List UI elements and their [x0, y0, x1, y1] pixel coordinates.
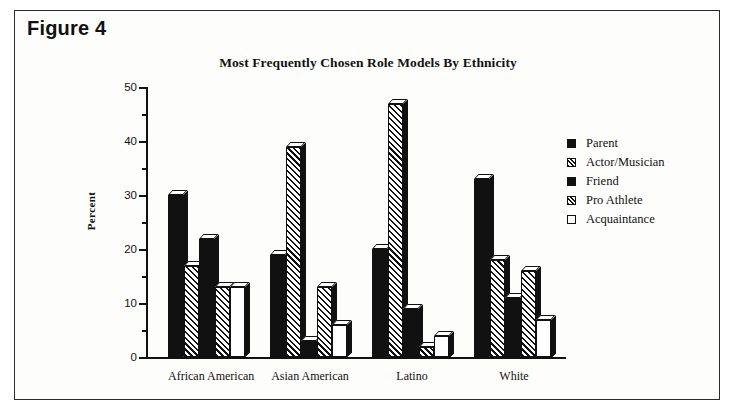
bar-front-face	[372, 249, 387, 357]
bar-group: White	[474, 87, 554, 357]
legend-label: Acquaintance	[586, 212, 655, 227]
x-axis-category-label: White	[474, 369, 554, 384]
bar	[301, 341, 316, 357]
bar-group: Asian American	[270, 87, 350, 357]
chart-title: Most Frequently Chosen Role Models By Et…	[15, 55, 721, 71]
y-tick-mark	[142, 276, 146, 277]
legend-swatch-icon	[567, 196, 576, 205]
legend-swatch-icon	[567, 177, 576, 186]
y-tick-label: 40	[124, 135, 137, 147]
bar	[317, 287, 332, 357]
plot-area: Percent 01020304050 African AmericanAsia…	[146, 87, 566, 359]
y-tick-mark	[139, 303, 146, 305]
legend-label: Actor/Musician	[586, 155, 664, 170]
bar	[270, 255, 285, 358]
bar	[168, 195, 183, 357]
x-axis-category-label: Latino	[372, 369, 452, 384]
legend-label: Parent	[586, 136, 618, 151]
bar-front-face	[521, 271, 536, 357]
bar	[372, 249, 387, 357]
y-tick-mark	[139, 357, 146, 359]
bar-front-face	[317, 287, 332, 357]
x-axis-category-label: African American	[168, 369, 248, 384]
chart-legend: ParentActor/MusicianFriendPro AthleteAcq…	[567, 135, 664, 230]
y-tick-label: 10	[124, 297, 137, 309]
legend-item: Parent	[567, 135, 664, 152]
bar	[434, 336, 449, 358]
legend-swatch-icon	[567, 215, 576, 224]
bar-front-face	[419, 347, 434, 358]
y-tick-mark	[142, 114, 146, 115]
bar-group: African American	[168, 87, 248, 357]
legend-item: Friend	[567, 173, 664, 190]
bar	[286, 147, 301, 358]
bar-side-face	[449, 331, 454, 357]
bar-front-face	[536, 320, 551, 358]
y-tick-mark	[139, 249, 146, 251]
x-axis-line	[146, 357, 566, 359]
y-tick-mark	[142, 168, 146, 169]
bar-front-face	[168, 195, 183, 357]
bar-front-face	[403, 309, 418, 358]
bar	[332, 325, 347, 357]
y-tick-mark	[142, 330, 146, 331]
bar-front-face	[184, 266, 199, 358]
y-tick-mark	[139, 87, 146, 89]
y-tick-label: 20	[124, 243, 137, 255]
figure-frame: Figure 4 Most Frequently Chosen Role Mod…	[14, 10, 720, 400]
bar-group: Latino	[372, 87, 452, 357]
legend-label: Pro Athlete	[586, 193, 643, 208]
bar	[388, 104, 403, 358]
bar-front-face	[505, 298, 520, 357]
bar	[199, 239, 214, 358]
bar-side-face	[245, 283, 250, 358]
bar-front-face	[230, 287, 245, 357]
legend-item: Acquaintance	[567, 211, 664, 228]
bar	[419, 347, 434, 358]
bar-side-face	[347, 321, 352, 358]
y-tick-mark	[139, 195, 146, 197]
bar-front-face	[199, 239, 214, 358]
y-tick-label: 50	[124, 81, 137, 93]
bar-front-face	[215, 287, 230, 357]
bar	[505, 298, 520, 357]
y-axis-label: Percent	[85, 192, 97, 231]
bar	[403, 309, 418, 358]
bar-front-face	[301, 341, 316, 357]
bar-front-face	[332, 325, 347, 357]
legend-item: Actor/Musician	[567, 154, 664, 171]
bar	[536, 320, 551, 358]
bar	[474, 179, 489, 357]
bar	[184, 266, 199, 358]
x-axis-category-label: Asian American	[270, 369, 350, 384]
bar-front-face	[490, 260, 505, 357]
bar	[230, 287, 245, 357]
bar-front-face	[286, 147, 301, 358]
y-tick-mark	[139, 141, 146, 143]
bar	[521, 271, 536, 357]
legend-label: Friend	[586, 174, 619, 189]
figure-caption: Figure 4	[27, 17, 106, 40]
y-tick-label: 0	[131, 351, 137, 363]
bar	[215, 287, 230, 357]
bar-front-face	[388, 104, 403, 358]
y-tick-mark	[142, 222, 146, 223]
legend-swatch-icon	[567, 139, 576, 148]
legend-swatch-icon	[567, 158, 576, 167]
y-tick-label: 30	[124, 189, 137, 201]
bar-side-face	[301, 142, 306, 357]
y-axis-line	[146, 87, 148, 359]
bar-side-face	[551, 315, 556, 357]
bar-front-face	[270, 255, 285, 358]
bar-front-face	[434, 336, 449, 358]
legend-item: Pro Athlete	[567, 192, 664, 209]
bar-front-face	[474, 179, 489, 357]
bar	[490, 260, 505, 357]
